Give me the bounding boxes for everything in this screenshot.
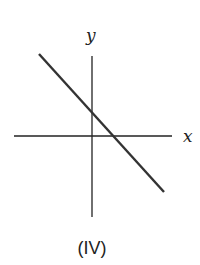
plotted-line [39, 54, 164, 192]
y-axis-label: y [85, 25, 96, 45]
x-axis-label: x [183, 126, 193, 146]
line-graph: y x [0, 0, 200, 265]
figure-caption: (IV) [0, 238, 184, 259]
